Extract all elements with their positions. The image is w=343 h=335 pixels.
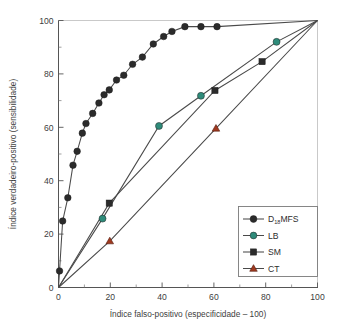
data-point-marker bbox=[198, 23, 205, 30]
data-point-marker bbox=[160, 33, 167, 40]
data-point-marker bbox=[197, 92, 204, 99]
data-point-marker bbox=[250, 216, 257, 223]
data-point-marker bbox=[250, 232, 257, 239]
data-point-marker bbox=[169, 28, 176, 35]
y-tick-label: 0 bbox=[49, 283, 54, 293]
data-point-marker bbox=[139, 54, 146, 61]
y-tick-label: 20 bbox=[44, 229, 54, 239]
data-point-marker bbox=[106, 200, 112, 206]
data-point-marker bbox=[106, 87, 113, 94]
data-point-marker bbox=[250, 249, 256, 255]
roc-plot-svg: 020406080100020406080100 Índice falso-po… bbox=[0, 0, 343, 335]
data-point-marker bbox=[83, 120, 90, 127]
data-point-marker bbox=[59, 218, 66, 225]
x-tick-label: 60 bbox=[209, 292, 219, 302]
data-point-marker bbox=[155, 122, 162, 129]
data-point-marker bbox=[129, 61, 136, 68]
y-tick-label: 80 bbox=[44, 69, 54, 79]
data-point-marker bbox=[214, 23, 221, 30]
x-tick-label: 40 bbox=[157, 292, 167, 302]
legend-label: LB bbox=[268, 231, 279, 241]
data-point-marker bbox=[70, 162, 77, 169]
data-point-marker bbox=[150, 41, 157, 48]
x-axis-title: Índice falso-positivo (especificidade – … bbox=[110, 309, 267, 319]
data-point-marker bbox=[79, 130, 86, 137]
x-tick-label: 0 bbox=[56, 292, 61, 302]
data-point-marker bbox=[113, 77, 120, 84]
legend-label: CT bbox=[268, 264, 280, 274]
legend-label: SM bbox=[268, 247, 281, 257]
x-tick-label: 20 bbox=[106, 292, 116, 302]
data-point-marker bbox=[182, 23, 189, 30]
data-point-marker bbox=[99, 215, 106, 222]
x-tick-label: 80 bbox=[261, 292, 271, 302]
data-point-marker bbox=[212, 87, 218, 93]
data-point-marker bbox=[120, 72, 127, 79]
data-point-marker bbox=[65, 194, 72, 201]
data-point-marker bbox=[96, 100, 103, 107]
legend-label: D18MFS bbox=[268, 214, 299, 225]
y-tick-label: 100 bbox=[39, 16, 54, 26]
x-tick-label: 100 bbox=[310, 292, 325, 302]
data-point-marker bbox=[259, 59, 265, 65]
y-tick-label: 40 bbox=[44, 176, 54, 186]
data-point-marker bbox=[273, 38, 280, 45]
figure-bottom-margin bbox=[0, 321, 343, 335]
y-tick-label: 60 bbox=[44, 123, 54, 133]
roc-chart-figure: 020406080100020406080100 Índice falso-po… bbox=[0, 0, 343, 335]
legend[interactable]: D18MFSLBSMCT bbox=[239, 207, 318, 277]
y-axis-title: Índice verdadeiro-positivo (sensibilidad… bbox=[8, 79, 18, 230]
data-point-marker bbox=[56, 268, 63, 275]
data-point-marker bbox=[89, 110, 96, 117]
data-point-marker bbox=[74, 148, 81, 155]
data-point-marker bbox=[101, 91, 108, 98]
